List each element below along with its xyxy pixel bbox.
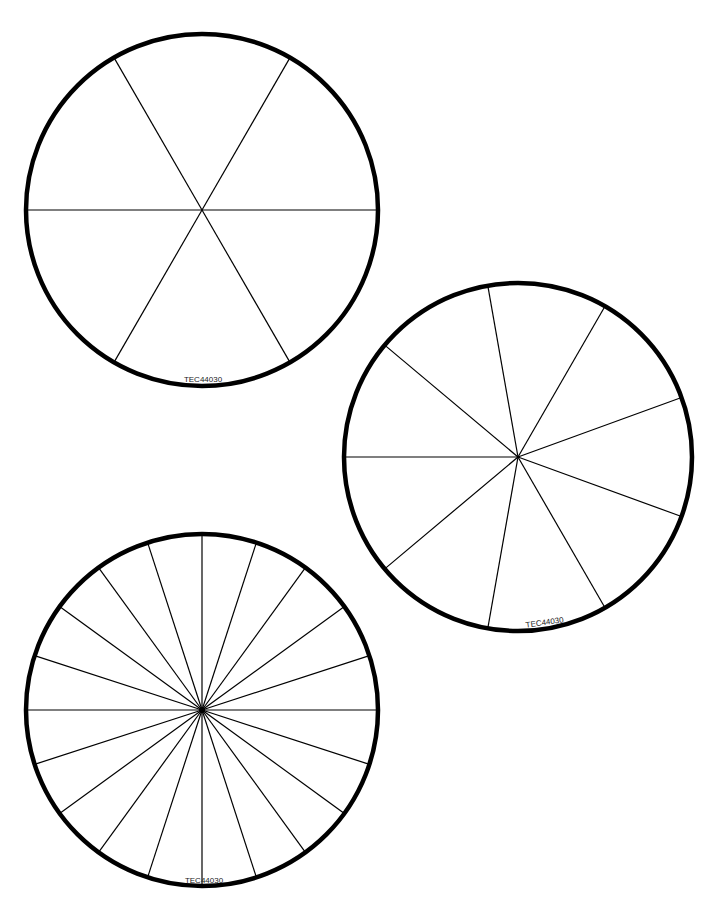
spoke-line	[35, 656, 202, 710]
spoke-line	[202, 710, 369, 764]
spoke-line	[518, 306, 605, 457]
spoke-line	[60, 607, 202, 710]
spoke-line	[35, 710, 202, 764]
spoke-line	[518, 457, 682, 517]
spoke-line	[148, 710, 202, 877]
spoke-line	[518, 397, 682, 457]
spoke-line	[114, 58, 202, 210]
spoke-line	[518, 457, 605, 608]
wheel-20-segments: TEC44030	[26, 534, 378, 886]
spoke-line	[488, 457, 518, 628]
spoke-line	[202, 710, 344, 813]
spoke-line	[385, 345, 518, 457]
spoke-line	[99, 568, 202, 710]
wheels-canvas: TEC44030 TEC44030 TEC44030	[0, 0, 725, 918]
spoke-line	[202, 607, 344, 710]
spoke-line	[202, 710, 305, 852]
spoke-line	[99, 710, 202, 852]
spoke-line	[385, 457, 518, 569]
wheel-9-segments: TEC44030	[344, 283, 692, 631]
spoke-line	[114, 210, 202, 362]
spoke-line	[148, 543, 202, 710]
wheel-6-segments: TEC44030	[26, 34, 378, 386]
spoke-line	[202, 568, 305, 710]
spoke-line	[202, 543, 256, 710]
spoke-line	[202, 210, 290, 362]
wheel-label: TEC44030	[185, 876, 224, 885]
spoke-line	[60, 710, 202, 813]
spoke-line	[488, 286, 518, 457]
spoke-line	[202, 58, 290, 210]
spoke-line	[202, 710, 256, 877]
wheel-label: TEC44030	[184, 375, 223, 384]
spoke-line	[202, 656, 369, 710]
hub-dot	[199, 707, 205, 713]
